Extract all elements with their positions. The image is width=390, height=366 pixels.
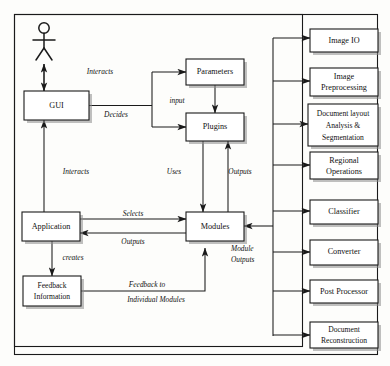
node-image-io-label: Image IO — [328, 36, 359, 45]
node-document-layout-label-line3: Segmentation — [322, 133, 364, 142]
node-regional-operations[interactable]: Regional Operations — [310, 152, 381, 182]
node-gui-label: GUI — [49, 101, 64, 110]
node-parameters-label: Parameters — [197, 67, 233, 76]
edge-label-interacts-top: Interacts — [86, 67, 113, 76]
edge-label-outputs-modules: Outputs — [121, 237, 145, 246]
node-plugins-label: Plugins — [203, 122, 228, 131]
edge-label-uses: Uses — [167, 167, 181, 176]
node-image-io[interactable]: Image IO — [310, 29, 381, 55]
node-image-preprocessing-label-line1: Image — [334, 72, 355, 81]
node-document-layout-analysis-segmentation[interactable]: Document layout Analysis & Segmentation — [308, 104, 381, 149]
node-image-preprocessing-label-line2: Preprocessing — [321, 83, 367, 92]
node-gui[interactable]: GUI — [24, 91, 92, 123]
node-post-processor[interactable]: Post Processor — [310, 280, 381, 306]
node-plugins[interactable]: Plugins — [186, 113, 247, 144]
actor-leg-left — [36, 48, 44, 60]
edge-label-decides: Decides — [103, 110, 128, 119]
edge-label-module-outputs-line1: Module — [230, 244, 254, 253]
architecture-diagram: GUI Parameters Plugins Application M — [0, 0, 390, 366]
node-document-layout-label-line2: Analysis & — [326, 121, 360, 130]
module-nodes-group: Image IO Image Preprocessing Document la… — [308, 29, 381, 351]
diagram-canvas: GUI Parameters Plugins Application M — [0, 0, 390, 366]
edge-label-input: input — [169, 96, 185, 105]
node-modules[interactable]: Modules — [186, 212, 247, 244]
edge-label-selects: Selects — [123, 209, 144, 218]
node-classifier[interactable]: Classifier — [310, 200, 381, 227]
user-actor — [33, 23, 55, 60]
node-regional-operations-label-line1: Regional — [329, 156, 359, 165]
node-converter-label: Converter — [328, 247, 361, 256]
core-nodes-group: GUI Parameters Plugins Application M — [22, 59, 247, 309]
node-image-preprocessing[interactable]: Image Preprocessing — [310, 68, 381, 99]
node-feedback-information[interactable]: Feedback Information — [23, 276, 84, 309]
node-document-reconstruction[interactable]: Document Reconstruction — [310, 322, 381, 351]
node-document-layout-label-line1: Document layout — [317, 109, 370, 118]
node-post-processor-label: Post Processor — [320, 287, 368, 296]
actor-leg-right — [44, 48, 52, 60]
edge-label-module-outputs-line2: Outputs — [231, 255, 255, 264]
edge-label-interacts-bottom: Interacts — [62, 167, 89, 176]
node-parameters[interactable]: Parameters — [186, 59, 247, 88]
edge-label-outputs-plugins: Outputs — [228, 167, 252, 176]
edge-label-creates: creates — [62, 253, 83, 262]
node-feedback-information-label-line1: Feedback — [37, 281, 66, 290]
node-classifier-label: Classifier — [328, 207, 360, 216]
node-application[interactable]: Application — [22, 212, 83, 244]
node-converter[interactable]: Converter — [310, 240, 381, 268]
edge-label-feedback-to: Feedback to — [128, 280, 166, 289]
node-feedback-information-label-line2: Information — [34, 292, 70, 301]
node-document-reconstruction-label-line2: Reconstruction — [321, 336, 367, 345]
node-application-label: Application — [32, 222, 71, 231]
edge-label-individual-modules: Individual Modules — [126, 295, 185, 304]
node-regional-operations-label-line2: Operations — [326, 167, 362, 176]
node-document-reconstruction-label-line1: Document — [328, 325, 361, 334]
node-modules-label: Modules — [201, 222, 230, 231]
actor-head-icon — [39, 23, 49, 33]
